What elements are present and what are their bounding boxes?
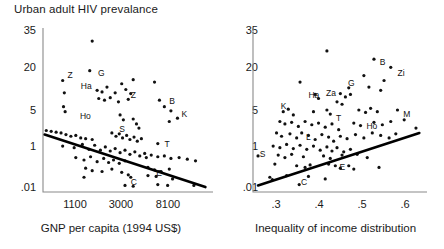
data-point	[272, 144, 275, 147]
point-label-b: B	[380, 58, 386, 67]
data-point	[277, 154, 280, 157]
point-label-e: E	[340, 163, 346, 172]
data-point	[329, 157, 332, 160]
data-point	[132, 117, 135, 120]
data-point	[335, 100, 338, 103]
point-label-ha: Ha	[308, 91, 319, 100]
data-point	[178, 156, 181, 159]
data-point	[362, 74, 365, 77]
data-point	[120, 82, 123, 85]
data-point	[381, 123, 384, 126]
point-label-z: Z	[68, 71, 73, 80]
data-point	[312, 144, 315, 147]
data-point	[50, 130, 53, 133]
x-tick-label-.3: .3	[265, 199, 287, 210]
data-point	[156, 155, 159, 158]
data-point	[118, 162, 121, 165]
point-label-ho: Ho	[366, 122, 377, 131]
data-point	[82, 158, 85, 161]
data-point	[280, 135, 283, 138]
data-point	[128, 138, 131, 141]
data-point	[169, 109, 172, 112]
data-point	[186, 158, 189, 161]
point-label-c: C	[301, 178, 307, 187]
data-point	[283, 122, 286, 125]
data-point	[287, 108, 290, 111]
data-point	[69, 135, 72, 138]
data-point	[103, 99, 106, 102]
data-point	[339, 135, 342, 138]
panel-income-inequality: 35 20 5 1 .01 .3 .4 .5 .6 Inequality of …	[222, 0, 444, 249]
data-point	[107, 161, 110, 164]
trend-line	[258, 133, 419, 185]
data-point	[309, 163, 312, 166]
x-axis-caption-right: Inequality of income distribution	[233, 222, 438, 234]
data-point	[305, 148, 308, 151]
data-point	[352, 167, 355, 170]
point-label-b: B	[169, 97, 175, 106]
point-label-l: L	[306, 133, 311, 142]
data-point	[292, 147, 295, 150]
x-tick-label-1100: 1100	[55, 199, 95, 210]
data-point	[278, 120, 281, 123]
data-point	[285, 143, 288, 146]
data-point	[59, 131, 62, 134]
data-point	[145, 156, 148, 159]
data-point	[102, 157, 105, 160]
data-point	[156, 142, 159, 145]
data-point	[396, 108, 399, 111]
data-point	[335, 146, 338, 149]
data-point	[135, 122, 138, 125]
data-point	[340, 103, 343, 106]
data-point	[143, 152, 146, 155]
data-point	[324, 177, 327, 180]
data-point	[273, 163, 276, 166]
data-point	[158, 99, 161, 102]
data-point	[114, 135, 117, 138]
data-point	[61, 144, 64, 147]
point-label-k: K	[281, 102, 287, 111]
data-point	[112, 158, 115, 161]
data-point	[168, 120, 171, 123]
data-point	[268, 176, 271, 179]
data-point	[340, 154, 343, 157]
data-point	[394, 132, 397, 135]
point-label-e: E	[156, 169, 162, 178]
data-point	[275, 131, 278, 134]
data-point	[128, 153, 131, 156]
x-tick-label-8100: 8100	[148, 199, 188, 210]
data-point	[325, 145, 328, 148]
point-label-g: G	[348, 79, 355, 88]
data-point	[344, 95, 347, 98]
data-point	[310, 123, 313, 126]
data-point	[379, 134, 382, 137]
data-point	[89, 155, 92, 158]
data-point	[124, 88, 127, 91]
data-point	[133, 150, 136, 153]
data-point	[166, 184, 169, 187]
data-point	[295, 164, 298, 167]
data-point	[303, 120, 306, 123]
data-point	[91, 40, 94, 43]
x-tick-label-3000: 3000	[101, 199, 141, 210]
data-point	[339, 92, 342, 95]
point-label-s: S	[260, 150, 266, 159]
data-point	[290, 121, 293, 124]
data-point	[136, 140, 139, 143]
data-point	[105, 85, 108, 88]
data-point	[45, 129, 48, 132]
data-point	[347, 164, 350, 167]
data-point	[372, 58, 375, 61]
data-point	[93, 144, 96, 147]
x-axis-caption-left: GNP per capita (1994 US$)	[11, 222, 211, 234]
data-point	[64, 110, 67, 113]
data-point	[314, 138, 317, 141]
data-point	[153, 81, 156, 84]
data-point	[298, 144, 301, 147]
data-point	[342, 150, 345, 153]
plot-area-right	[222, 0, 444, 249]
data-point	[319, 149, 322, 152]
data-point	[278, 146, 281, 149]
data-point	[55, 131, 58, 134]
data-point	[325, 108, 328, 111]
